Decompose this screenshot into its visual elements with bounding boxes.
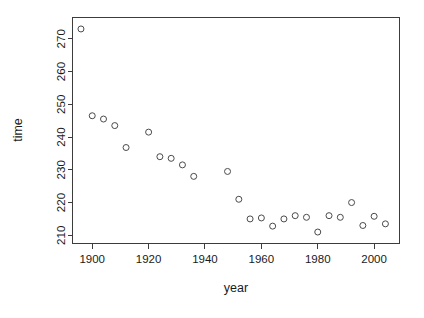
scatter-point	[179, 162, 185, 168]
scatter-point	[349, 200, 355, 206]
x-axis-tick-labels: 190019201940196019802000	[79, 253, 386, 265]
scatter-point	[326, 213, 332, 219]
scatter-point	[337, 214, 343, 220]
scatter-point	[101, 116, 107, 122]
y-tick-label: 250	[56, 95, 68, 114]
scatter-point	[191, 173, 197, 179]
y-axis-tick-labels: 210220230240250260270	[56, 29, 68, 245]
x-tick-label: 1960	[249, 253, 275, 265]
scatter-point	[225, 168, 231, 174]
y-tick-label: 260	[56, 62, 68, 81]
y-tick-label: 210	[56, 226, 68, 245]
scatter-point	[157, 154, 163, 160]
scatter-point	[78, 26, 84, 32]
scatter-point	[89, 113, 95, 119]
scatter-point	[315, 229, 321, 235]
y-axis-title: time	[11, 118, 25, 142]
x-axis-ticks	[92, 244, 374, 249]
y-axis-ticks	[68, 39, 73, 236]
scatter-point	[112, 123, 118, 129]
scatter-point	[360, 222, 366, 228]
x-tick-label: 1980	[305, 253, 331, 265]
scatter-point	[247, 216, 253, 222]
x-tick-label: 1900	[79, 253, 105, 265]
x-axis-title: year	[224, 281, 248, 295]
scatter-plot-figure: 210220230240250260270 190019201940196019…	[0, 0, 424, 318]
scatter-point	[236, 196, 242, 202]
scatter-point	[258, 215, 264, 221]
y-tick-label: 270	[56, 29, 68, 48]
scatter-point	[146, 129, 152, 135]
scatter-point	[382, 221, 388, 227]
scatter-point	[371, 213, 377, 219]
x-tick-label: 1940	[192, 253, 218, 265]
x-tick-label: 2000	[361, 253, 387, 265]
scatter-point	[281, 216, 287, 222]
x-tick-label: 1920	[136, 253, 162, 265]
plot-canvas: 210220230240250260270 190019201940196019…	[0, 0, 424, 318]
scatter-point	[270, 223, 276, 229]
y-tick-label: 220	[56, 193, 68, 212]
scatter-points-layer	[78, 26, 388, 235]
scatter-point	[168, 155, 174, 161]
plot-frame-box	[73, 18, 400, 244]
y-tick-label: 230	[56, 160, 68, 179]
scatter-point	[123, 145, 129, 151]
y-tick-label: 240	[56, 127, 68, 146]
scatter-point	[303, 214, 309, 220]
scatter-point	[292, 213, 298, 219]
